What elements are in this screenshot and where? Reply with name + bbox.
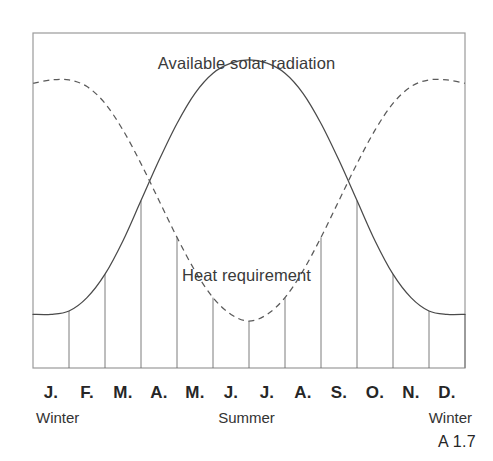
heat-requirement-label: Heat requirement xyxy=(0,267,493,284)
figure-container: Available solar radiation Heat requireme… xyxy=(0,0,493,461)
month-label-10: O. xyxy=(355,383,395,403)
solar-radiation-label: Available solar radiation xyxy=(0,55,493,72)
month-label-4: A. xyxy=(139,383,179,403)
month-label-12: D. xyxy=(427,383,467,403)
plot-frame xyxy=(33,33,465,368)
figure-caption: A 1.7 xyxy=(0,434,476,450)
month-label-9: S. xyxy=(319,383,359,403)
x-axis-month-labels: J.F.M.A.M.J.J.A.S.O.N.D. xyxy=(0,383,493,405)
month-label-11: N. xyxy=(391,383,431,403)
season-label-winter-right: Winter xyxy=(0,410,472,425)
month-label-3: M. xyxy=(103,383,143,403)
month-label-7: J. xyxy=(247,383,287,403)
month-label-5: M. xyxy=(175,383,215,403)
month-label-1: J. xyxy=(31,383,71,403)
month-label-6: J. xyxy=(211,383,251,403)
month-label-2: F. xyxy=(67,383,107,403)
month-label-8: A. xyxy=(283,383,323,403)
